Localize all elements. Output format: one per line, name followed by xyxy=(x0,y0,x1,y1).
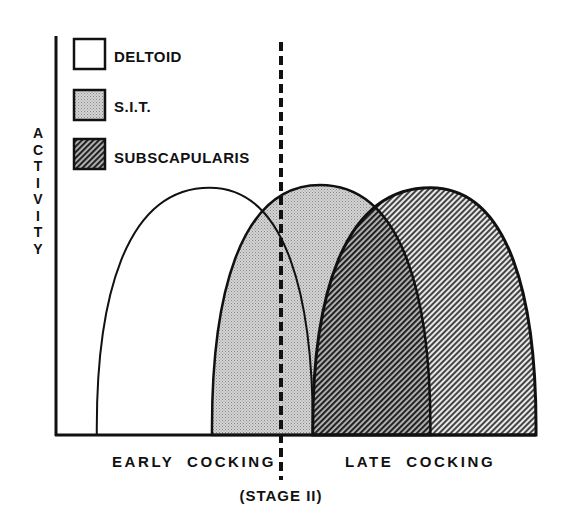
legend-label-subscapularis: SUBSCAPULARIS xyxy=(114,149,250,166)
legend-label-sit: S.I.T. xyxy=(114,98,151,115)
divider-label-stage-ii: (STAGE II) xyxy=(239,487,322,504)
y-axis-label-letter: Y xyxy=(33,241,43,257)
y-axis-label-letter: C xyxy=(33,142,43,158)
y-axis-label-letter: T xyxy=(34,158,43,174)
legend-swatch-sit xyxy=(74,90,105,120)
y-axis-label-letter: T xyxy=(34,224,43,240)
y-axis-label-letter: V xyxy=(33,191,43,207)
y-axis-label: ACTIVITY xyxy=(33,125,43,257)
legend-swatch-subscapularis xyxy=(74,139,105,169)
phase-label-early-cocking: EARLY COCKING xyxy=(112,453,276,470)
y-axis-label-letter: I xyxy=(36,208,40,224)
legend-swatch-deltoid xyxy=(74,39,105,69)
curves-layer xyxy=(97,185,536,435)
legend-label-deltoid: DELTOID xyxy=(114,48,182,65)
phase-label-late-cocking: LATE COCKING xyxy=(345,453,495,470)
muscle-activity-diagram: ACTIVITY DELTOID S.I.T. SUBSCAPULARIS EA… xyxy=(0,0,566,521)
y-axis-label-letter: A xyxy=(33,125,43,141)
legend: DELTOID S.I.T. SUBSCAPULARIS xyxy=(74,39,250,169)
y-axis-label-letter: I xyxy=(36,175,40,191)
